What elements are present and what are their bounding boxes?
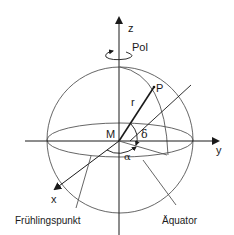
right-ascension-arc	[107, 147, 136, 153]
equator-leader	[143, 160, 176, 205]
x-axis	[55, 141, 119, 189]
equator-label: Äquator	[162, 215, 198, 226]
declination-arc	[131, 124, 137, 145]
y-axis-label: y	[216, 144, 222, 156]
celestial-sphere-diagram: z Pol P r M δ α y x Frühlingspunkt Äquat…	[0, 0, 234, 235]
x-axis-label: x	[51, 193, 57, 205]
vernal-equinox-leader	[76, 156, 91, 208]
point-p-label: P	[156, 82, 163, 94]
center-label: M	[106, 128, 115, 140]
meridian-arc	[120, 67, 168, 155]
diagram-canvas: z Pol P r M δ α y x Frühlingspunkt Äquat…	[0, 0, 234, 235]
vernal-equinox-label: Frühlingspunkt	[15, 215, 81, 226]
radius-label: r	[131, 96, 135, 108]
point-p-marker	[153, 86, 156, 89]
z-axis-label: z	[128, 22, 134, 34]
pole-label: Pol	[132, 41, 148, 53]
right-ascension-label: α	[124, 151, 131, 162]
declination-label: δ	[141, 128, 148, 141]
